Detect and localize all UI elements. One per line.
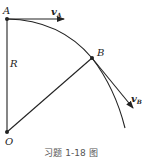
label-A: A — [2, 5, 10, 16]
trajectory-curve — [7, 19, 125, 128]
label-vA: vA — [51, 6, 62, 18]
point-O-dot — [5, 130, 9, 134]
velocity-B-arrow — [92, 58, 133, 108]
figure-caption: 习题 1-18 图 — [44, 148, 97, 158]
label-B: B — [96, 47, 104, 58]
line-OB — [7, 58, 92, 132]
point-B-dot — [90, 56, 94, 60]
label-O: O — [5, 136, 13, 147]
label-R: R — [9, 58, 18, 69]
label-vB: vB — [131, 93, 142, 105]
trajectory-diagram: A B O R vA vB 习题 1-18 图 — [0, 0, 142, 161]
point-A-dot — [5, 17, 9, 21]
